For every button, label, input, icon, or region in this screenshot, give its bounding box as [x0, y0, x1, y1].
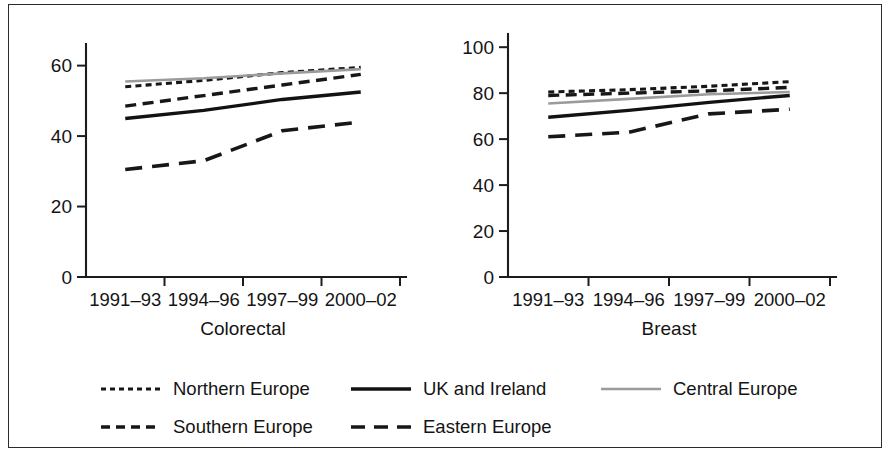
series-line-northern-europe: [548, 82, 790, 92]
y-tick-label: 0: [483, 267, 494, 288]
legend-item-southern-europe: Southern Europe: [100, 410, 313, 444]
legend-item-uk-and-ireland: UK and Ireland: [350, 372, 546, 406]
legend-label: Central Europe: [673, 380, 797, 399]
legend-label: Southern Europe: [173, 418, 313, 437]
legend-row-2: Southern EuropeEastern Europe: [0, 410, 893, 444]
x-tick-label: 1994–96: [593, 289, 665, 310]
x-tick-label: 2000–02: [754, 289, 826, 310]
figure-root: 02040601991–931994–961997–992000–02Color…: [0, 0, 893, 454]
legend-item-central-europe: Central Europe: [600, 372, 797, 406]
chart-legend: Northern EuropeUK and IrelandCentral Eur…: [0, 360, 893, 454]
panel-title: Colorectal: [200, 318, 286, 339]
legend-label: UK and Ireland: [423, 380, 546, 399]
legend-swatch-icon: [100, 420, 162, 434]
chart-panel-breast: 0204060801001991–931994–961997–992000–02…: [440, 0, 890, 360]
y-tick-label: 80: [473, 83, 494, 104]
x-tick-label: 1991–93: [89, 289, 161, 310]
panel-title: Breast: [642, 318, 698, 339]
legend-swatch-icon: [600, 382, 662, 396]
y-tick-label: 60: [51, 55, 72, 76]
x-tick-label: 2000–02: [325, 289, 397, 310]
x-tick-label: 1991–93: [512, 289, 584, 310]
y-tick-label: 60: [473, 129, 494, 150]
legend-swatch-icon: [350, 420, 412, 434]
legend-label: Northern Europe: [173, 380, 310, 399]
y-tick-label: 20: [473, 221, 494, 242]
legend-item-eastern-europe: Eastern Europe: [350, 410, 552, 444]
legend-label: Eastern Europe: [423, 418, 552, 437]
legend-item-northern-europe: Northern Europe: [100, 372, 310, 406]
y-tick-label: 100: [462, 37, 494, 58]
chart-panel-colorectal: 02040601991–931994–961997–992000–02Color…: [0, 0, 450, 360]
legend-swatch-icon: [350, 382, 412, 396]
legend-row-1: Northern EuropeUK and IrelandCentral Eur…: [0, 372, 893, 406]
x-tick-label: 1997–99: [246, 289, 318, 310]
colorectal-plot-svg: 02040601991–931994–961997–992000–02Color…: [0, 0, 450, 360]
y-tick-label: 40: [51, 126, 72, 147]
legend-swatch-icon: [100, 382, 162, 396]
series-line-uk-and-ireland: [548, 95, 790, 117]
breast-plot-svg: 0204060801001991–931994–961997–992000–02…: [440, 0, 890, 360]
y-tick-label: 40: [473, 175, 494, 196]
y-tick-label: 20: [51, 196, 72, 217]
series-line-uk-and-ireland: [125, 92, 361, 118]
series-line-eastern-europe: [125, 122, 361, 170]
y-tick-label: 0: [61, 267, 72, 288]
x-tick-label: 1994–96: [168, 289, 240, 310]
x-tick-label: 1997–99: [673, 289, 745, 310]
